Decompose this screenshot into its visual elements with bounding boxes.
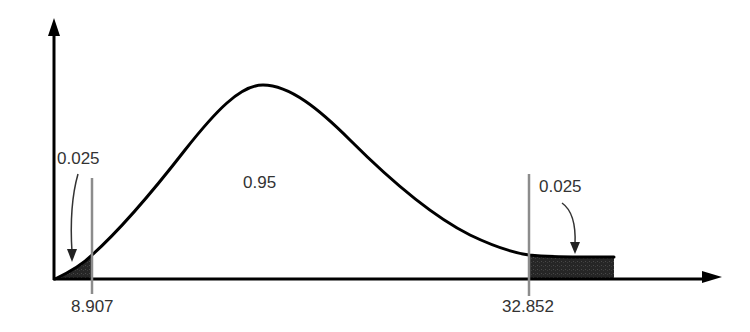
center-area-label: 0.95 (243, 174, 276, 191)
right-tail-pointer-arrow (562, 203, 575, 245)
x-axis-arrow-icon (702, 271, 722, 283)
right-arrowhead-icon (570, 242, 580, 254)
right-tail-area-label: 0.025 (539, 178, 582, 195)
y-axis-arrow-icon (48, 18, 60, 36)
upper-critical-value-label: 32.852 (502, 298, 554, 315)
lower-critical-value-label: 8.907 (71, 298, 114, 315)
left-tail-area-label: 0.025 (57, 150, 100, 167)
chi-square-diagram (0, 0, 750, 332)
right-tail-shaded-region (529, 255, 614, 279)
left-arrowhead-icon (67, 249, 77, 262)
left-tail-pointer-arrow (71, 174, 78, 252)
